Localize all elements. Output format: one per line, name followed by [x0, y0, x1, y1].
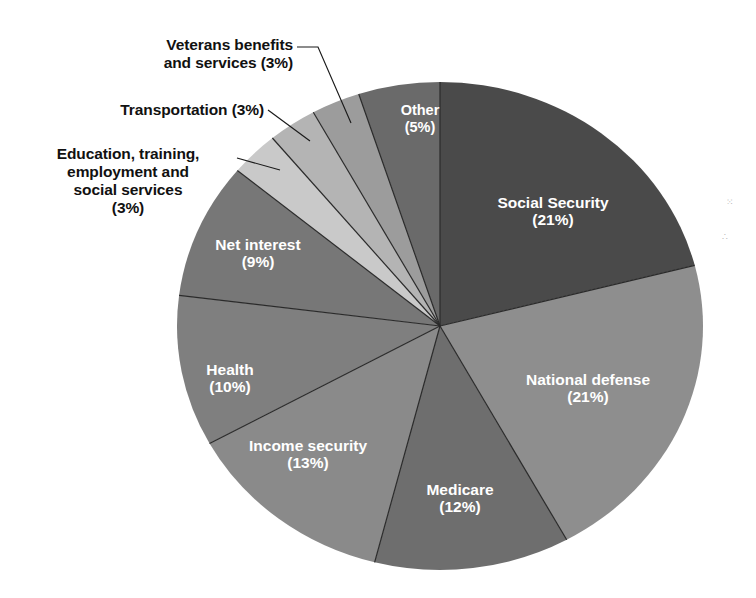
slice-label-health: Health(10%): [206, 361, 253, 395]
outside-slice-label-veterans: Veterans benefits and services (3%): [60, 36, 293, 72]
outside-slice-label-transportation: Transportation (3%): [30, 101, 264, 119]
outside-slice-label-education: Education, training, employment and soci…: [22, 145, 234, 217]
pie-chart-canvas: Social Security(21%)National defense(21%…: [0, 0, 756, 598]
pie-chart-figure: Social Security(21%)National defense(21%…: [0, 0, 756, 598]
slice-label-other: Other(5%): [401, 102, 440, 135]
speck-top: ⁙: [726, 197, 734, 207]
speck-bottom: ∴: [722, 232, 728, 242]
